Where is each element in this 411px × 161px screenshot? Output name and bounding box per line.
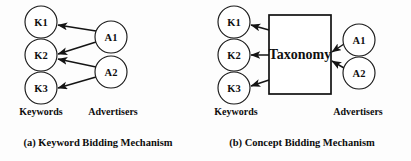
edge-a2-to-k3 [58,77,96,88]
node-b-a2: A2 [343,57,375,89]
node-a1-label: A1 [105,32,118,43]
node-b-k3-label: K3 [227,83,240,94]
edge-a2-to-taxonomy [332,61,344,68]
node-b-a1-label: A1 [353,35,366,46]
panel-a-keywords-group-label: Keywords [19,106,62,117]
panel-a: K1 K2 K3 A1 A2 [19,6,172,149]
node-b-k3: K3 [218,72,250,104]
node-b-a2-label: A2 [353,68,366,79]
edge-a2-to-k2 [58,59,96,67]
figure-container: K1 K2 K3 A1 A2 [0,0,411,161]
panel-b-keywords-group-label: Keywords [214,106,257,117]
panel-a-advertisers-group-label: Advertisers [88,106,138,117]
node-a2: A2 [95,56,127,88]
concept-box-label: Taxonomy [269,47,332,62]
bidding-mechanism-diagram: K1 K2 K3 A1 A2 [0,0,411,161]
panel-b: Taxonomy K1 K2 K3 A1 [214,6,382,149]
panel-a-caption: (a) Keyword Bidding Mechanism [23,137,172,149]
node-k3-label: K3 [34,83,47,94]
panel-b-caption: (b) Concept Bidding Mechanism [229,137,375,149]
edge-taxonomy-to-k1 [251,25,269,30]
node-k1-label: K1 [34,17,47,28]
node-b-a1: A1 [343,24,375,56]
panel-a-keyword-nodes: K1 K2 K3 [25,6,57,104]
node-a1: A1 [95,21,127,53]
edge-a1-to-taxonomy [332,44,344,52]
edge-a1-to-k2 [58,42,96,54]
node-b-k2-label: K2 [227,50,240,61]
node-b-k1-label: K1 [227,17,240,28]
panel-b-advertisers-group-label: Advertisers [333,106,383,117]
panel-b-advertiser-nodes: A1 A2 [343,24,375,89]
node-k2-label: K2 [34,50,47,61]
node-a2-label: A2 [105,67,118,78]
node-k2: K2 [25,39,57,71]
edge-a1-to-k1 [58,25,96,31]
node-b-k2: K2 [218,39,250,71]
concept-box: Taxonomy [269,15,332,94]
node-k1: K1 [25,6,57,38]
panel-b-keyword-nodes: K1 K2 K3 [218,6,250,104]
panel-a-edges [58,25,96,88]
edge-taxonomy-to-k3 [251,80,269,86]
panel-a-advertiser-nodes: A1 A2 [95,21,127,88]
node-b-k1: K1 [218,6,250,38]
node-k3: K3 [25,72,57,104]
